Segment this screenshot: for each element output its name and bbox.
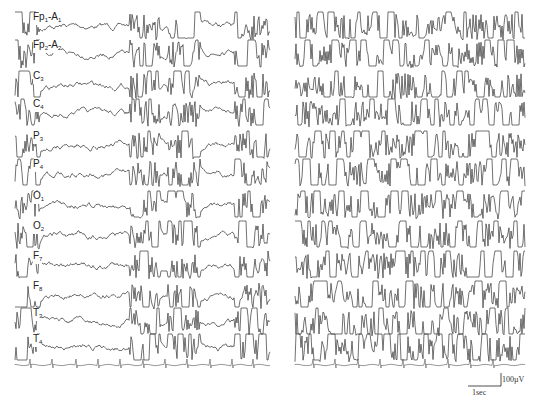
eeg-trace-right-c3 — [295, 71, 525, 99]
eeg-trace-left-t4 — [15, 334, 270, 360]
channel-label-f8: F8 — [33, 281, 42, 294]
eeg-trace-right-o1 — [295, 191, 525, 219]
eeg-trace-right-f7 — [295, 251, 525, 279]
eeg-trace-right-o2 — [295, 221, 525, 249]
eeg-trace-left-p3 — [15, 131, 270, 159]
time-scale-label: 1sec — [472, 388, 486, 397]
eeg-trace-left-f7 — [15, 251, 270, 279]
eeg-trace-right-t3 — [295, 308, 525, 336]
eeg-trace-left-c3 — [15, 71, 270, 99]
eeg-trace-left-o1 — [15, 191, 270, 219]
eeg-trace-right-p4 — [295, 159, 525, 186]
channel-label-f7: F7 — [33, 251, 42, 264]
eeg-trace-right-t4 — [295, 334, 525, 362]
eeg-trace-left-p4 — [15, 159, 270, 187]
channel-label-c3: C3 — [33, 71, 44, 84]
ecg-trace-left — [15, 359, 270, 368]
eeg-trace-left-o2 — [15, 221, 270, 249]
eeg-figure — [0, 0, 553, 406]
eeg-trace-right-f8 — [295, 281, 525, 309]
channel-label-o1: O1 — [33, 191, 44, 204]
channel-label-t4: T4 — [33, 334, 42, 347]
figure-caption — [100, 398, 430, 406]
scale-bar — [468, 373, 501, 386]
channel-label-fp2-a2: Fp2-A2 — [33, 40, 61, 53]
eeg-trace-right-fp1-a1 — [295, 12, 525, 40]
channel-label-c4: C4 — [33, 99, 44, 112]
eeg-trace-left-c4 — [15, 99, 270, 127]
eeg-trace-right-c4 — [295, 99, 525, 127]
channel-label-p3: P3 — [33, 131, 43, 144]
eeg-trace-right-fp2-a2 — [295, 40, 525, 68]
channel-label-p4: P4 — [33, 159, 43, 172]
ecg-trace-right — [295, 359, 525, 368]
eeg-trace-left-t3 — [15, 308, 270, 335]
amplitude-scale-label: 100µV — [502, 375, 524, 384]
channel-label-fp1-a1: Fp1-A1 — [33, 12, 61, 25]
eeg-trace-left-f8 — [15, 283, 270, 309]
channel-label-t3: T3 — [33, 308, 42, 321]
channel-label-o2: O2 — [33, 221, 44, 234]
eeg-trace-right-p3 — [295, 131, 525, 158]
